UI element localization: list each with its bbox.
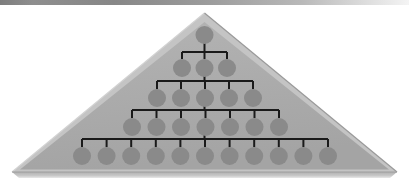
pyramid-base-shadow (12, 172, 397, 178)
node-n15[interactable] (246, 118, 264, 136)
node-n3[interactable] (196, 59, 214, 77)
pyramid-diagram-canvas (0, 0, 409, 183)
node-n27[interactable] (319, 147, 337, 165)
node-n9[interactable] (244, 89, 262, 107)
node-n14[interactable] (221, 118, 239, 136)
node-n17[interactable] (73, 147, 91, 165)
node-n2[interactable] (173, 59, 191, 77)
node-n6[interactable] (172, 89, 190, 107)
node-n26[interactable] (294, 147, 312, 165)
node-n10[interactable] (123, 118, 141, 136)
node-n19[interactable] (122, 147, 140, 165)
diagram-stage (0, 0, 409, 183)
node-n22[interactable] (196, 147, 214, 165)
node-n16[interactable] (270, 118, 288, 136)
node-n7[interactable] (196, 89, 214, 107)
node-n4[interactable] (218, 59, 236, 77)
node-n21[interactable] (171, 147, 189, 165)
node-n12[interactable] (172, 118, 190, 136)
node-n20[interactable] (147, 147, 165, 165)
node-n8[interactable] (220, 89, 238, 107)
top-divider-bar (0, 0, 409, 5)
node-n24[interactable] (245, 147, 263, 165)
node-n25[interactable] (270, 147, 288, 165)
node-n18[interactable] (98, 147, 116, 165)
node-n11[interactable] (148, 118, 166, 136)
node-n1[interactable] (196, 26, 214, 44)
node-n5[interactable] (148, 89, 166, 107)
node-n23[interactable] (221, 147, 239, 165)
node-n13[interactable] (197, 118, 215, 136)
